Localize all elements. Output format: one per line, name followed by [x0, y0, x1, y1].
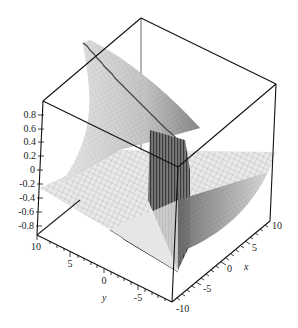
y-tick-label: 0 [102, 275, 107, 286]
x-tick-label: -10 [176, 303, 189, 314]
z-tick-label: -0.8 [18, 220, 34, 231]
z-tick-label: -0.6 [18, 206, 34, 217]
x-tick-label: 10 [272, 220, 282, 231]
x-tick-label: -5 [203, 283, 211, 294]
z-tick-label: 0.4 [24, 136, 37, 147]
z-tick-label: -0.4 [19, 192, 35, 203]
z-tick-labels: 0.8 0.6 0.4 0.2 0 -0.2 -0.4 -0.6 -0.8 [18, 109, 36, 231]
y-axis-label: y [101, 292, 107, 303]
x-tick-label: 0 [227, 263, 232, 274]
x-tick-label: 5 [252, 242, 257, 253]
z-tick-label: 0 [30, 164, 35, 175]
y-tick-label: -5 [134, 292, 142, 303]
y-tick-label: 10 [31, 241, 41, 252]
x-axis-label: x [243, 261, 249, 272]
z-tick-label: 0.6 [24, 123, 37, 134]
z-tick-label: -0.2 [19, 178, 35, 189]
z-tick-label: 0.2 [24, 150, 37, 161]
y-tick-label: 5 [68, 258, 73, 269]
y-tick-labels: 10 5 0 -5 [31, 241, 142, 303]
surface-plot-3d: 0.8 0.6 0.4 0.2 0 -0.2 -0.4 -0.6 -0.8 10… [0, 0, 298, 328]
z-tick-label: 0.8 [24, 109, 37, 120]
